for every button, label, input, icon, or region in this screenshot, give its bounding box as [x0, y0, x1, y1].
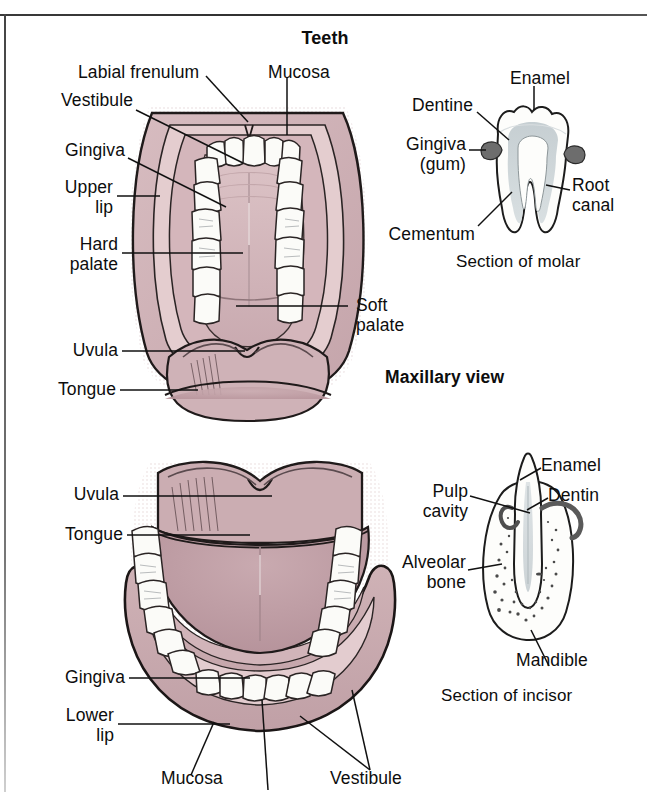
incisor-label-pulp-cavity: Pulp cavity [374, 481, 468, 521]
incisor-label-alveolar-bone: Alveolar bone [362, 552, 466, 592]
incisor-label-mandible: Mandible [516, 650, 588, 670]
incisor-label-dentin: Dentin [548, 485, 599, 505]
incisor-section-caption: Section of incisor [441, 686, 572, 706]
textbook-page: Teeth [0, 0, 647, 792]
incisor-label-enamel: Enamel [541, 455, 601, 475]
incisor-leader-lines [0, 0, 647, 792]
